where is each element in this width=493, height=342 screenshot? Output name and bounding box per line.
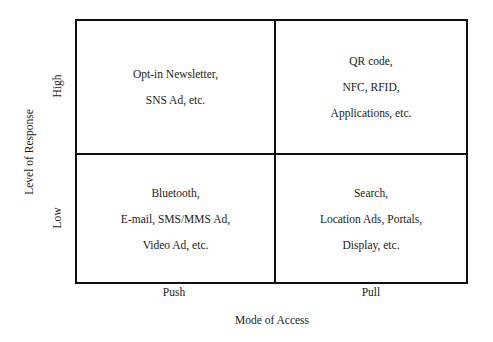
quadrant-text: Location Ads, Portals, [320, 206, 422, 232]
quadrant-text: Opt-in Newsletter, [133, 61, 218, 87]
quadrant-high-pull: QR code, NFC, RFID, Applications, etc. [276, 21, 466, 153]
x-tick-push: Push [163, 286, 185, 298]
quadrant-text: Video Ad, etc. [143, 232, 209, 258]
quadrant-text: Applications, etc. [331, 100, 412, 126]
quadrant-low-pull: Search, Location Ads, Portals, Display, … [276, 155, 466, 282]
y-axis-label: Level of Response [23, 109, 35, 195]
quadrant-high-push: Opt-in Newsletter, SNS Ad, etc. [77, 21, 274, 153]
y-tick-high: High [51, 75, 63, 98]
quadrant-text: Search, [354, 180, 388, 206]
quadrant-text: Display, etc. [342, 232, 399, 258]
quadrant-text: SNS Ad, etc. [146, 87, 205, 113]
quadrant-low-push: Bluetooth, E-mail, SMS/MMS Ad, Video Ad,… [77, 155, 274, 282]
quadrant-text: E-mail, SMS/MMS Ad, [121, 206, 230, 232]
quadrant-text: QR code, [349, 48, 392, 74]
y-tick-low: Low [51, 207, 63, 228]
x-axis-label: Mode of Access [235, 314, 309, 326]
quadrant-matrix: Opt-in Newsletter, SNS Ad, etc. QR code,… [75, 19, 468, 284]
quadrant-text: NFC, RFID, [342, 74, 399, 100]
quadrant-text: Bluetooth, [151, 180, 199, 206]
x-tick-pull: Pull [362, 286, 381, 298]
